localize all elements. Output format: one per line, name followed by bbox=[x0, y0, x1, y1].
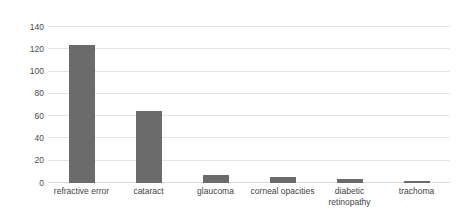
x-axis-tick-label: trachoma bbox=[383, 186, 450, 197]
x-axis-tick-label: glaucoma bbox=[182, 186, 249, 197]
y-axis-tick-label: 20 bbox=[4, 156, 44, 165]
bar-slot bbox=[249, 27, 316, 183]
bar-slot bbox=[316, 27, 383, 183]
bar-slot bbox=[182, 27, 249, 183]
x-axis: refractive errorcataractglaucomacorneal … bbox=[48, 186, 450, 222]
bar[interactable] bbox=[270, 177, 296, 183]
x-axis-tick-label: corneal opacities bbox=[249, 186, 316, 197]
bar-slot bbox=[383, 27, 450, 183]
y-axis-tick-label: 100 bbox=[4, 67, 44, 76]
x-axis-tick-label: refractive error bbox=[48, 186, 115, 197]
x-axis-tick-label: diabetic retinopathy bbox=[316, 186, 383, 207]
bar[interactable] bbox=[69, 45, 95, 183]
bar[interactable] bbox=[337, 179, 363, 183]
y-axis-tick-label: 140 bbox=[4, 23, 44, 32]
bars-layer bbox=[48, 27, 450, 183]
y-axis-tick-label: 60 bbox=[4, 112, 44, 121]
y-axis-tick-label: 0 bbox=[4, 179, 44, 188]
y-axis-tick-label: 120 bbox=[4, 45, 44, 54]
bar[interactable] bbox=[203, 175, 229, 183]
x-axis-tick-label: cataract bbox=[115, 186, 182, 197]
bar[interactable] bbox=[136, 111, 162, 183]
y-axis: 020406080100120140 bbox=[0, 27, 44, 183]
bar-slot bbox=[115, 27, 182, 183]
bar[interactable] bbox=[404, 181, 430, 183]
bar-chart: 020406080100120140 refractive errorcatar… bbox=[0, 0, 458, 223]
y-axis-tick-label: 40 bbox=[4, 134, 44, 143]
y-axis-tick-label: 80 bbox=[4, 90, 44, 99]
bar-slot bbox=[48, 27, 115, 183]
